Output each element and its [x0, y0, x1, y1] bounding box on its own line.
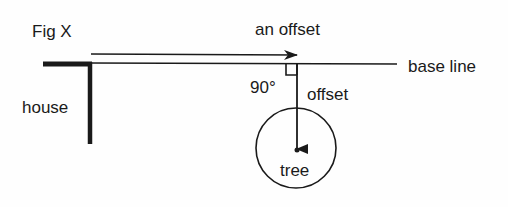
distance-arrow	[91, 54, 297, 55]
tree-label: tree	[280, 161, 309, 180]
offset-diagram: Fig X an offset base line house 90° offs…	[0, 0, 508, 207]
base-line-label: base line	[408, 57, 476, 76]
angle-label: 90°	[250, 78, 276, 97]
figure-title: Fig X	[32, 22, 72, 41]
house-label: house	[22, 98, 68, 117]
right-angle-marker	[286, 64, 297, 75]
base-line	[90, 63, 397, 64]
offset-label: offset	[307, 85, 349, 104]
tree-point	[295, 148, 300, 153]
diagram-svg: Fig X an offset base line house 90° offs…	[0, 0, 508, 207]
an-offset-label: an offset	[255, 20, 320, 39]
